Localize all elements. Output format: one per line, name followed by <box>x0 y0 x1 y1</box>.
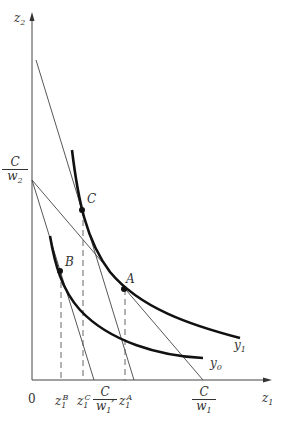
x-axis-label: z1 <box>262 392 273 407</box>
point-C-label: C <box>87 193 96 205</box>
y-axis-arrow-icon <box>30 12 35 21</box>
point-B-marker <box>57 268 63 274</box>
point-A-marker <box>121 286 127 292</box>
x-axis-arrow-icon <box>263 378 272 383</box>
isoquant-y1-label: y1 <box>234 339 246 354</box>
point-C-marker <box>79 207 85 213</box>
tick-zB-label: z1B <box>55 394 68 410</box>
x-intercept-new-label: C w1′ <box>93 386 117 416</box>
tick-zA-label: z1A <box>119 394 132 410</box>
origin-label: 0 <box>28 393 36 405</box>
diagram-canvas <box>0 0 282 429</box>
isoquant-y1 <box>72 150 240 338</box>
tick-zC-label: z1C <box>77 394 91 410</box>
isoquant-y0-label: y0 <box>210 357 222 372</box>
y-intercept-label: C w2 <box>2 156 28 186</box>
point-B-label: B <box>65 256 74 268</box>
point-A-label: A <box>126 273 135 285</box>
x-intercept-old-label: C w1 <box>192 386 216 416</box>
y-axis-label: z2 <box>14 12 25 27</box>
